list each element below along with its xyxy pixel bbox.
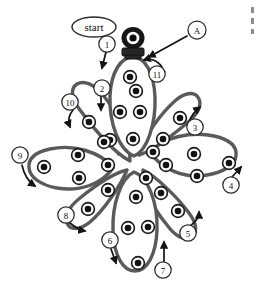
cap-band-lower <box>125 55 141 59</box>
node <box>134 106 147 119</box>
node <box>83 116 96 129</box>
node <box>114 106 127 119</box>
node <box>160 159 173 172</box>
cap-center-dot <box>129 35 136 42</box>
start-label-text: start <box>85 21 104 33</box>
node <box>147 146 160 159</box>
step-badge-10: 10 <box>62 94 78 110</box>
step-badge-4: 4 <box>223 177 239 193</box>
node <box>188 148 201 161</box>
step-badge-5: 5 <box>180 225 196 241</box>
node <box>127 133 140 146</box>
page-edge-marks <box>251 7 254 34</box>
step-badge-label: 10 <box>66 98 76 108</box>
node <box>174 112 187 125</box>
top-cap-structure <box>122 27 145 59</box>
node <box>155 187 168 200</box>
marker-a-badge: A <box>188 21 206 39</box>
start-label: start <box>72 17 116 37</box>
node <box>82 203 95 216</box>
node <box>140 172 153 185</box>
arrow-step-10 <box>69 110 73 127</box>
figure-canvas: start A 1 2 3 4 <box>0 0 263 286</box>
step-badge-label: 7 <box>161 266 166 276</box>
node <box>132 257 145 270</box>
node <box>122 222 135 235</box>
node <box>191 170 204 183</box>
node <box>130 85 143 98</box>
node <box>172 205 185 218</box>
step-badge-3: 3 <box>187 119 203 135</box>
step-badge-11: 11 <box>149 66 165 82</box>
step-badge-label: 3 <box>193 123 198 133</box>
arrow-step-1 <box>102 52 106 68</box>
step-badge-label: 9 <box>18 151 23 161</box>
node <box>130 191 143 204</box>
node <box>72 149 85 162</box>
node <box>102 184 115 197</box>
rosette-diagram: start A 1 2 3 4 <box>0 0 263 286</box>
step-badge-6: 6 <box>102 232 118 248</box>
step-badge-label: 6 <box>108 236 113 246</box>
step-badge-label: 8 <box>64 211 69 221</box>
node <box>38 161 51 174</box>
step-badge-9: 9 <box>12 147 28 163</box>
edge-mark <box>251 18 254 24</box>
node <box>157 133 170 146</box>
step-badge-7: 7 <box>155 262 171 278</box>
edge-mark <box>251 29 254 34</box>
node <box>98 136 111 149</box>
step-badge-label: 4 <box>229 181 234 191</box>
node <box>102 159 115 172</box>
step-badge-label: 11 <box>153 70 162 80</box>
node <box>73 172 86 185</box>
step-badge-1: 1 <box>99 36 115 52</box>
node <box>124 71 137 84</box>
step-badge-label: 5 <box>186 229 191 239</box>
arrow-marker-a <box>149 36 187 57</box>
step-badge-label: 1 <box>105 40 110 50</box>
step-badge-label: 2 <box>100 84 105 94</box>
step-badge-2: 2 <box>94 80 110 96</box>
node <box>142 221 155 234</box>
node <box>223 157 236 170</box>
edge-mark <box>251 7 254 13</box>
step-badge-8: 8 <box>58 207 74 223</box>
marker-a-text: A <box>194 26 201 36</box>
